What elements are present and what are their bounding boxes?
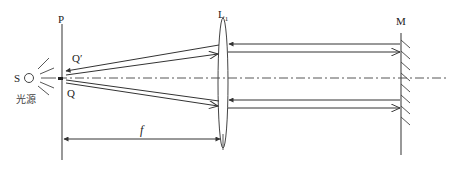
lens-label: L1: [218, 9, 228, 23]
source-label-s: S: [14, 73, 20, 84]
point-label-q: Q: [67, 88, 75, 99]
lens-label-sub: 1: [225, 15, 229, 23]
rays-right: [228, 44, 400, 108]
lens-icon: [218, 18, 228, 150]
mirror-label-m: M: [396, 16, 406, 27]
rays-left: [66, 45, 219, 106]
lens-label-main: L: [218, 8, 225, 20]
optical-diagram: P S 光源 Q′ Q L1 M f: [0, 0, 457, 176]
light-source-icon: [25, 58, 57, 95]
plane-label-p: P: [58, 14, 64, 25]
source-caption: 光源: [16, 95, 36, 105]
mirror-icon: [401, 33, 410, 155]
point-label-q-prime: Q′: [72, 53, 82, 64]
focal-length-label: f: [140, 124, 143, 136]
